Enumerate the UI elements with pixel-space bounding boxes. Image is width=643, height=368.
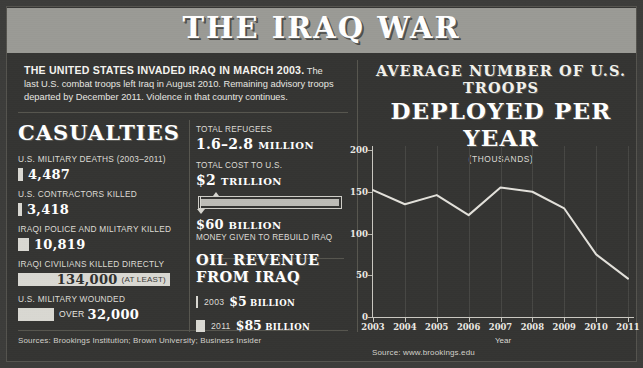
oil-revenue-number: $5 xyxy=(229,294,246,309)
oil-revenue-list: 2003$5 BILLION2011$85 BILLION xyxy=(196,294,348,333)
x-axis-tick xyxy=(596,318,597,322)
statistics-section: TOTAL REFUGEES 1.6–2.8 MILLION TOTAL COS… xyxy=(196,125,348,342)
rebuild-note: MONEY GIVEN TO REBUILD IRAQ xyxy=(196,233,348,242)
casualty-bar xyxy=(18,203,22,216)
oil-revenue-bar xyxy=(196,320,205,332)
cost-value: $2 TRILLION xyxy=(196,172,348,188)
x-axis-tick xyxy=(532,318,533,322)
casualty-value: 134,000 xyxy=(57,272,122,287)
sources-left: Sources: Brookings Institution; Brown Un… xyxy=(18,336,261,345)
troops-line xyxy=(373,188,628,279)
casualty-label: U.S. MILITARY WOUNDED xyxy=(18,294,183,304)
casualty-item: IRAQI CIVILIANS KILLED DIRECTLY134,000(A… xyxy=(18,259,183,286)
rebuild-number: $60 xyxy=(196,217,224,232)
line-chart: 050100150200 200320042005200620072008200… xyxy=(372,146,634,318)
casualty-bar-row: 3,418 xyxy=(18,202,183,216)
x-axis-tick xyxy=(437,318,438,322)
title-band: THE IRAQ WAR xyxy=(7,8,636,53)
oil-revenue-unit: BILLION xyxy=(247,298,295,308)
oil-revenue-value: $85 BILLION xyxy=(236,318,311,333)
casualty-item: U.S. MILITARY WOUNDEDOVER32,000 xyxy=(18,294,183,321)
casualty-note: (AT LEAST) xyxy=(122,275,170,284)
casualty-value: 32,000 xyxy=(88,307,140,322)
x-axis-tick-label: 2006 xyxy=(457,322,480,332)
x-axis-tick-label: 2005 xyxy=(425,322,448,332)
casualty-bar-row: OVER32,000 xyxy=(18,307,183,321)
casualties-heading: CASUALTIES xyxy=(18,120,183,145)
x-axis-tick-label: 2011 xyxy=(616,322,639,332)
x-axis-tick-label: 2008 xyxy=(521,322,544,332)
casualty-bar xyxy=(18,238,29,251)
refugees-number: 1.6–2.8 xyxy=(196,136,253,152)
x-axis-tick-label: 2007 xyxy=(489,322,512,332)
casualty-bar xyxy=(18,308,54,321)
casualty-label: U.S. CONTRACTORS KILLED xyxy=(18,189,183,199)
sources-right: Source: www.brookings.edu xyxy=(372,348,475,357)
casualty-label: IRAQI POLICE AND MILITARY KILLED xyxy=(18,224,183,234)
casualties-list: U.S. MILITARY DEATHS (2003–2011)4,487U.S… xyxy=(18,154,183,321)
page-title: THE IRAQ WAR xyxy=(7,11,636,45)
casualty-value: 4,487 xyxy=(28,167,70,182)
refugees-value: 1.6–2.8 MILLION xyxy=(196,136,348,152)
oil-revenue-year: 2011 xyxy=(211,321,231,331)
oil-revenue-bar xyxy=(196,296,198,308)
chart-title-line1: AVERAGE NUMBER OF U.S. TROOPS xyxy=(372,62,630,96)
cost-bar-up-marker-icon xyxy=(213,192,219,196)
casualty-label: U.S. MILITARY DEATHS (2003–2011) xyxy=(18,154,183,164)
oil-revenue-unit: BILLION xyxy=(262,322,310,332)
x-axis-tick xyxy=(469,318,470,322)
x-axis-tick xyxy=(373,318,374,322)
casualty-note: OVER xyxy=(59,309,85,319)
x-axis-tick-label: 2003 xyxy=(361,322,384,332)
oil-revenue-row: 2003$5 BILLION xyxy=(196,294,348,309)
x-axis-title: Year xyxy=(372,336,634,345)
casualty-bar-row: 134,000(AT LEAST) xyxy=(18,272,183,286)
infographic-poster: THE IRAQ WAR THE UNITED STATES INVADED I… xyxy=(0,0,643,368)
oil-revenue-year: 2003 xyxy=(204,297,224,307)
casualty-item: IRAQI POLICE AND MILITARY KILLED10,819 xyxy=(18,224,183,251)
casualty-bar-row: 10,819 xyxy=(18,237,183,251)
casualty-item: U.S. CONTRACTORS KILLED3,418 xyxy=(18,189,183,216)
casualty-bar xyxy=(18,168,23,181)
casualty-value: 3,418 xyxy=(27,202,69,217)
casualty-item: U.S. MILITARY DEATHS (2003–2011)4,487 xyxy=(18,154,183,181)
x-axis-tick xyxy=(628,318,629,322)
cost-bar-fill xyxy=(200,199,339,206)
refugees-unit: MILLION xyxy=(258,140,314,151)
divider-intro xyxy=(18,112,348,113)
divider-left-mid xyxy=(189,120,190,332)
oil-revenue-value: $5 BILLION xyxy=(229,294,295,309)
chart-title-line2: DEPLOYED PER YEAR xyxy=(372,97,630,151)
oil-revenue-heading: OIL REVENUE FROM IRAQ xyxy=(196,251,348,285)
casualty-bar: 134,000(AT LEAST) xyxy=(18,273,170,286)
cost-unit: TRILLION xyxy=(221,176,282,187)
x-axis-tick xyxy=(564,318,565,322)
x-axis-tick-label: 2009 xyxy=(553,322,576,332)
intro-lead: THE UNITED STATES INVADED IRAQ IN MARCH … xyxy=(24,64,304,76)
cost-bar-graphic xyxy=(196,192,348,214)
casualty-label: IRAQI CIVILIANS KILLED DIRECTLY xyxy=(18,259,183,269)
chart-line-series xyxy=(372,146,634,318)
refugees-label: TOTAL REFUGEES xyxy=(196,125,348,134)
rebuild-value: $60 BILLION xyxy=(196,217,348,232)
x-axis-tick xyxy=(501,318,502,322)
intro-paragraph: THE UNITED STATES INVADED IRAQ IN MARCH … xyxy=(24,64,336,105)
rebuild-unit: BILLION xyxy=(228,220,281,231)
x-axis-tick xyxy=(405,318,406,322)
oil-revenue-row: 2011$85 BILLION xyxy=(196,318,348,333)
casualties-section: CASUALTIES U.S. MILITARY DEATHS (2003–20… xyxy=(18,120,183,329)
casualty-bar-row: 4,487 xyxy=(18,167,183,181)
x-axis-tick-label: 2004 xyxy=(393,322,416,332)
cost-bar-pointer-arrow-icon xyxy=(197,209,205,214)
casualty-value: 10,819 xyxy=(34,237,86,252)
cost-number: $2 xyxy=(196,172,216,188)
x-axis-tick-label: 2010 xyxy=(584,322,607,332)
cost-label: TOTAL COST TO U.S. xyxy=(196,161,348,170)
oil-revenue-number: $85 xyxy=(236,318,262,333)
